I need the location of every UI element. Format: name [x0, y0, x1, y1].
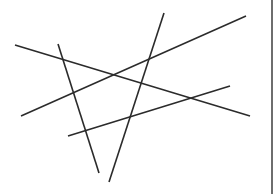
- line-a-segment: [15, 45, 250, 116]
- line-segments-diagram: [0, 0, 274, 194]
- right-border-divider: [271, 0, 273, 194]
- line-e-segment: [68, 86, 230, 136]
- line-c-segment: [109, 13, 164, 182]
- diagram-canvas: [0, 0, 274, 194]
- line-d-segment: [21, 16, 246, 116]
